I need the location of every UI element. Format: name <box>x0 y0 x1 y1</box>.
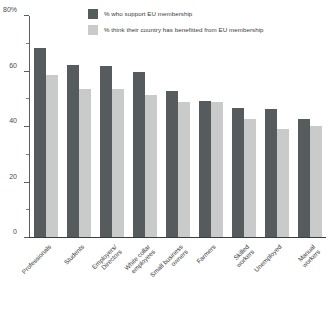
x-category: Professionals <box>30 241 63 303</box>
bar-group <box>162 16 195 237</box>
bar-series-container <box>30 16 326 237</box>
y-tick-label: 40 <box>9 117 17 124</box>
bar-group <box>96 16 129 237</box>
bar-support <box>265 109 277 237</box>
bar-support <box>133 72 145 237</box>
bar-group <box>63 16 96 237</box>
y-tick-minor <box>26 154 29 155</box>
bar-support <box>298 119 310 237</box>
x-category-label: Farmers <box>194 243 216 265</box>
x-axis-line <box>29 237 326 238</box>
x-category: Unemployed <box>261 241 294 303</box>
y-tick-major: 20 <box>24 182 29 183</box>
y-tick-label: 0 <box>13 228 17 235</box>
y-tick-label: 80% <box>3 6 17 13</box>
bar-support <box>100 66 112 237</box>
bar-group <box>194 16 227 237</box>
y-tick-minor <box>26 209 29 210</box>
y-tick-major: 40 <box>24 126 29 127</box>
y-tick-minor <box>26 43 29 44</box>
x-category-label: Students <box>62 243 85 266</box>
bar-support <box>34 48 46 237</box>
bar-benefitted <box>112 89 124 237</box>
y-tick-major: 0 <box>24 237 29 238</box>
x-category-label: Skilledworkers <box>229 243 255 269</box>
x-category-label: Manualworkers <box>295 243 321 269</box>
bar-group <box>260 16 293 237</box>
x-category: Employers/Directors <box>96 241 129 303</box>
bar-benefitted <box>46 75 58 237</box>
bar-group <box>30 16 63 237</box>
bar-benefitted <box>277 129 289 237</box>
x-axis-category-labels: ProfessionalsStudentsEmployers/Directors… <box>30 241 327 303</box>
bar-support <box>199 101 211 237</box>
x-category: Manualworkers <box>294 241 327 303</box>
x-category: Students <box>63 241 96 303</box>
x-category: Small businessowners <box>162 241 195 303</box>
y-tick-major: 60 <box>24 71 29 72</box>
bar-support <box>232 108 244 237</box>
bar-benefitted <box>310 126 322 237</box>
plot-area: 020406080% <box>29 16 326 238</box>
bar-benefitted <box>211 102 223 237</box>
bar-benefitted <box>244 119 256 237</box>
bar-group <box>129 16 162 237</box>
x-category-label: Professionals <box>20 243 52 275</box>
bar-support <box>67 65 79 237</box>
bar-group <box>293 16 326 237</box>
bar-chart: % who support EU membership % think thei… <box>0 0 330 309</box>
bar-group <box>227 16 260 237</box>
y-tick-major: 80% <box>24 15 29 16</box>
y-tick-label: 20 <box>9 172 17 179</box>
y-tick-minor <box>26 98 29 99</box>
x-category: Farmers <box>195 241 228 303</box>
y-tick-label: 60 <box>9 61 17 68</box>
bar-benefitted <box>79 89 91 237</box>
bar-benefitted <box>145 95 157 237</box>
bar-support <box>166 91 178 237</box>
bar-benefitted <box>178 102 190 237</box>
